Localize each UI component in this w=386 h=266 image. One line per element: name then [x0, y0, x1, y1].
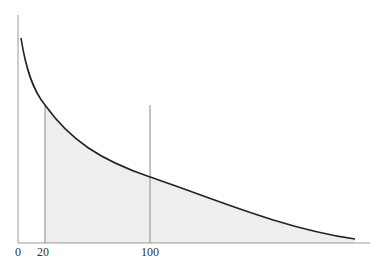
shaded-area [45, 105, 355, 243]
plot-area [0, 0, 386, 266]
x-tick-20: 20 [37, 245, 49, 260]
chart: 0 20 100 [0, 0, 386, 266]
x-tick-100: 100 [141, 245, 159, 260]
x-tick-0: 0 [15, 245, 21, 260]
